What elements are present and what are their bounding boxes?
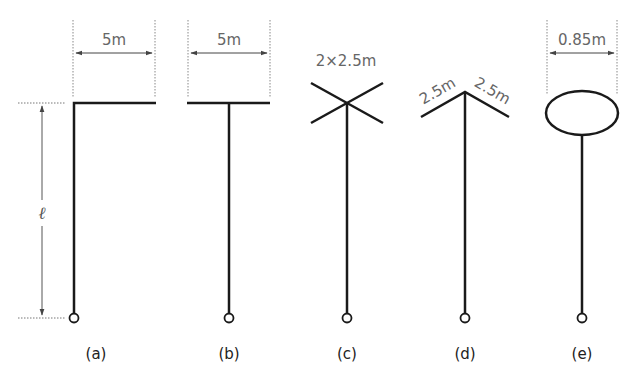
feed-point-b <box>225 314 234 323</box>
feed-point-a <box>70 314 79 323</box>
feed-point-c <box>343 314 352 323</box>
antenna-c: 2×2.5m (c) <box>311 52 383 363</box>
dimension-label-d-left: 2.5m <box>416 73 458 108</box>
antenna-a: 5m (a) <box>70 20 157 363</box>
antenna-b: 5m (b) <box>187 20 270 363</box>
dimension-label-b: 5m <box>217 31 241 49</box>
dimension-label-a: 5m <box>102 31 126 49</box>
caption-e: (e) <box>572 345 593 363</box>
height-label: ℓ <box>38 203 45 223</box>
antenna-diagram: ℓ 5m (a) 5m (b) 2×2.5m (c) 2.5m 2.5m <box>0 0 626 391</box>
caption-a: (a) <box>86 345 107 363</box>
caption-d: (d) <box>454 345 475 363</box>
dimension-label-c: 2×2.5m <box>316 52 377 70</box>
caption-b: (b) <box>218 345 239 363</box>
feed-point-e <box>578 314 587 323</box>
height-dimension: ℓ <box>18 103 66 318</box>
antenna-d: 2.5m 2.5m (d) <box>416 73 513 363</box>
antenna-e: 0.85m (e) <box>546 20 618 363</box>
caption-c: (c) <box>337 345 357 363</box>
dimension-label-d-right: 2.5m <box>471 73 513 108</box>
dimension-label-e: 0.85m <box>558 31 606 49</box>
feed-point-d <box>461 314 470 323</box>
